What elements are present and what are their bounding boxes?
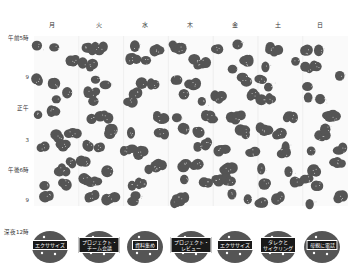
activity-blobs — [0, 0, 349, 274]
activity-tag: プロジェクト・ レビュー — [171, 237, 212, 253]
activity-tag: エクササイズ — [32, 240, 68, 250]
activity-tag: エクササイズ — [217, 240, 253, 250]
activity-tag: プロジェクト・ チーム会議 — [79, 237, 120, 253]
activity-tag: 母親に電話 — [307, 240, 338, 250]
activity-tag: 資料集め — [132, 240, 158, 250]
activity-tag: タレクと サイクリング — [260, 237, 296, 253]
